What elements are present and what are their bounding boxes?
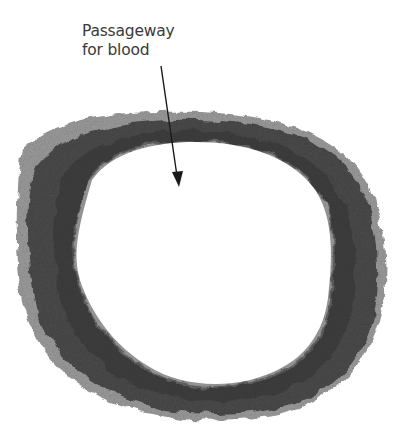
vessel-micrograph-figure: Passageway for blood [0, 0, 413, 432]
label-line-1: Passageway [82, 22, 175, 41]
vessel-cross-section [0, 0, 413, 432]
label-line-2: for blood [82, 41, 175, 60]
passageway-label: Passageway for blood [82, 22, 175, 60]
